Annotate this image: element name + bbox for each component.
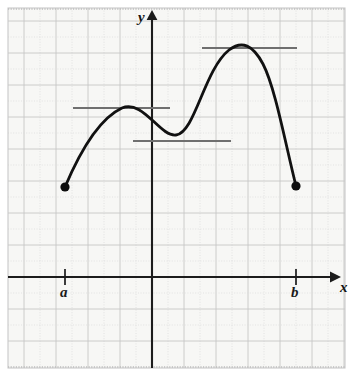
tick-label-b: b bbox=[291, 284, 299, 300]
x-axis-label: x bbox=[339, 279, 348, 295]
endpoint-dot-b bbox=[291, 181, 300, 190]
tick-label-a: a bbox=[60, 284, 68, 300]
endpoint-dot-a bbox=[60, 182, 69, 191]
function-graph-figure: y x a b bbox=[0, 0, 355, 378]
figure-container: y x a b bbox=[0, 0, 355, 378]
y-axis-label: y bbox=[136, 9, 145, 25]
